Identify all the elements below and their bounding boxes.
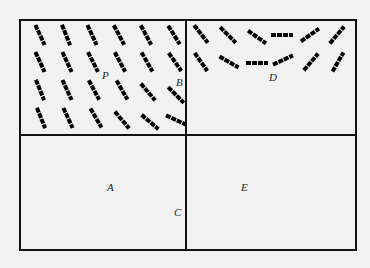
- point-labels: P B D A C E: [101, 69, 277, 218]
- director-segment: [115, 112, 129, 129]
- director-segment: [114, 25, 124, 44]
- director-segment: [168, 26, 180, 45]
- director-segment: [63, 108, 72, 128]
- director-segment: [273, 55, 293, 64]
- director-segment: [330, 27, 344, 44]
- director-segment: [37, 108, 45, 128]
- label-c: C: [174, 206, 182, 218]
- label-p: P: [101, 69, 109, 81]
- director-segment: [168, 87, 184, 103]
- director-segment: [91, 109, 102, 128]
- director-segment: [301, 29, 319, 42]
- panel-top-left: [35, 25, 186, 129]
- director-segment: [142, 53, 153, 72]
- director-segment: [142, 115, 159, 129]
- label-b: B: [176, 76, 183, 88]
- director-segment: [248, 31, 266, 44]
- director-segment: [35, 52, 44, 72]
- director-segment: [36, 80, 44, 100]
- director-segment: [194, 25, 208, 42]
- label-d: D: [268, 71, 277, 83]
- director-segment: [62, 80, 71, 100]
- director-segment: [141, 25, 151, 44]
- director-segment: [88, 52, 98, 72]
- director-segment: [304, 54, 318, 71]
- director-segment: [141, 84, 155, 101]
- label-a: A: [106, 181, 114, 193]
- director-segment: [62, 52, 71, 72]
- director-segment: [220, 27, 236, 43]
- orientation-segments: [35, 25, 344, 129]
- director-field-diagram: P B D A C E: [0, 0, 370, 268]
- label-e: E: [240, 181, 248, 193]
- director-segment: [89, 80, 99, 99]
- director-segment: [333, 53, 344, 72]
- director-segment: [195, 53, 208, 71]
- director-segment: [169, 53, 182, 71]
- director-segment: [35, 25, 44, 45]
- director-segment: [220, 57, 239, 68]
- director-segment: [166, 115, 186, 124]
- panel-top-right: [194, 25, 344, 71]
- director-segment: [62, 25, 70, 45]
- director-segment: [87, 25, 96, 45]
- director-segment: [115, 52, 125, 71]
- director-segment: [117, 81, 128, 100]
